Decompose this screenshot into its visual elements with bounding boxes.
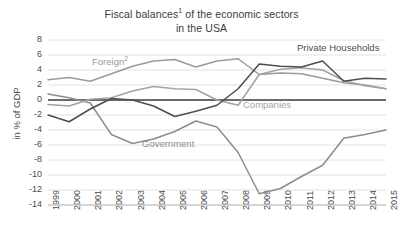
- series-label-companies: Companies: [243, 100, 291, 110]
- chart-container: Fiscal balances1 of the economic sectors…: [0, 0, 403, 243]
- series-label-foreign-footnote: 2: [124, 55, 128, 62]
- series-line-government: [48, 94, 386, 194]
- series-label-government: Government: [142, 139, 194, 149]
- plot-area: [0, 0, 403, 243]
- series-label-foreign-text: Foreign: [92, 56, 124, 67]
- series-label-private-households: Private Households: [297, 43, 379, 53]
- series-lines-group: [48, 59, 386, 194]
- series-label-foreign: Foreign2: [92, 54, 128, 67]
